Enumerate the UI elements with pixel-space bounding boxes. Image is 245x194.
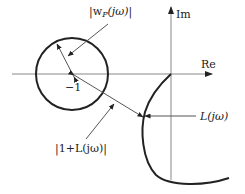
real-axis-label: Re — [201, 58, 216, 71]
weight-label-pointer — [68, 24, 108, 56]
distance-label-pointer — [86, 104, 114, 139]
imag-axis-label: Im — [176, 8, 191, 21]
curve-label: L(jω) — [199, 110, 228, 123]
nyquist-curve — [143, 74, 229, 184]
nyquist-diagram: Re Im −1 |wP(jω)| |1+L(jω)| L(jω) — [0, 0, 245, 194]
distance-label: |1+L(jω)| — [55, 142, 107, 156]
radius-arrow — [57, 44, 74, 77]
weight-label: |wP(jω)| — [89, 5, 132, 19]
minus-one-label: −1 — [65, 81, 81, 94]
